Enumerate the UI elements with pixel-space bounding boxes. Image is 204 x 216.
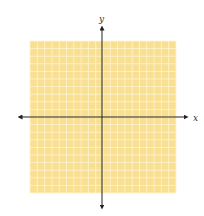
- x-axis-label: x: [193, 113, 198, 123]
- coordinate-plane: x y: [0, 0, 204, 216]
- y-axis-label: y: [98, 14, 105, 24]
